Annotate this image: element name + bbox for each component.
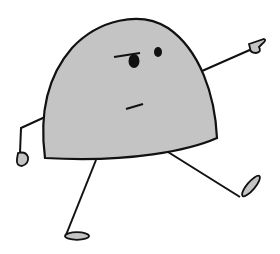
character-drawing xyxy=(0,0,280,254)
legs xyxy=(65,152,262,240)
right-foot xyxy=(240,173,263,198)
right-eye xyxy=(154,47,162,57)
fist-icon xyxy=(17,153,28,167)
dome-body xyxy=(43,19,217,159)
right-arm xyxy=(202,39,265,71)
illustration xyxy=(0,0,280,254)
pointing-hand-icon xyxy=(249,39,265,53)
left-eye xyxy=(129,54,140,68)
left-foot xyxy=(65,232,89,240)
